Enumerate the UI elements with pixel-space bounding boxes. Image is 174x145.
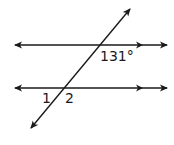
angle-label-1: 1 bbox=[42, 90, 51, 106]
top-parallel-line bbox=[15, 42, 167, 49]
transversal-line bbox=[31, 9, 130, 128]
parallel-lines-diagram: 131° 1 2 bbox=[0, 0, 174, 145]
angle-label-2: 2 bbox=[65, 90, 74, 106]
bottom-parallel-line bbox=[15, 85, 167, 92]
angle-label-131: 131° bbox=[100, 48, 134, 64]
